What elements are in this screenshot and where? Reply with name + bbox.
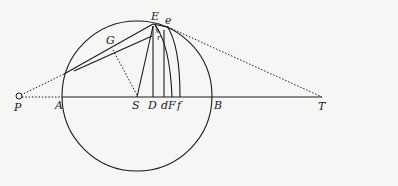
label-e: e <box>165 14 172 27</box>
line-S-E <box>137 26 153 97</box>
line-e-T <box>168 27 322 97</box>
label-F: F <box>167 99 176 112</box>
label-G: G <box>106 34 115 47</box>
label-d: d <box>161 99 168 112</box>
geometry-diagram: P A S D d F f B T E e G x r <box>0 0 398 186</box>
label-r: r <box>157 33 162 42</box>
label-B: B <box>213 99 222 112</box>
label-f: f <box>176 99 183 112</box>
line-G-S <box>113 50 137 95</box>
line-chord-to-E <box>64 24 153 74</box>
point-P-marker <box>16 93 22 99</box>
label-S: S <box>132 99 140 112</box>
line-P-E <box>21 74 64 95</box>
label-D: D <box>147 99 157 112</box>
label-T: T <box>318 100 327 113</box>
label-P: P <box>13 101 22 114</box>
label-E: E <box>150 10 159 23</box>
label-A: A <box>54 99 63 112</box>
